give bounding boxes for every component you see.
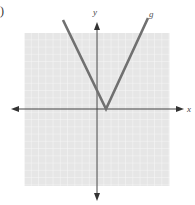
y-axis-up-arrow-icon [94,22,100,30]
graph: x y g [0,0,195,205]
x-axis-right-arrow-icon [176,106,184,112]
x-axis-left-arrow-icon [11,106,19,112]
y-axis-label: y [92,7,97,17]
y-axis-down-arrow-icon [94,193,100,201]
x-axis-label: x [186,104,191,114]
curve-label-g: g [149,9,154,19]
